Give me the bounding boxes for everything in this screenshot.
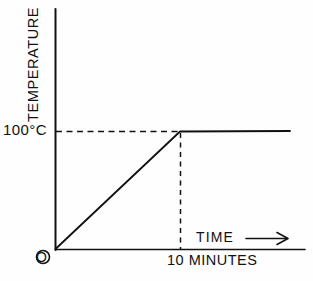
right-arrow-icon [246,233,288,245]
heating-curve-series [56,131,291,249]
x-axis-tick-label-10min: 10 MINUTES [167,253,257,268]
x-axis-label: TIME [196,230,234,244]
y-axis-tick-label-100c: 100°C [3,122,47,137]
y-axis-label: TEMPERATURE [26,18,42,122]
heating-curve-figure: TEMPERATURE 100°C O TIME 10 MINUTES [0,0,313,281]
origin-label: O [36,250,47,264]
chart-canvas [0,0,313,281]
